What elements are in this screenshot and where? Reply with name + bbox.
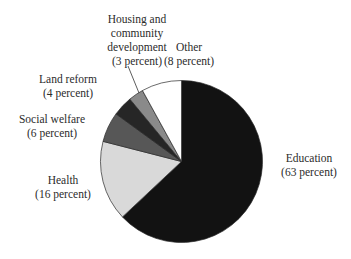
label-land-reform-line1: Land reform bbox=[28, 72, 108, 86]
label-education: Education (63 percent) bbox=[269, 151, 349, 179]
label-health: Health (16 percent) bbox=[28, 173, 98, 201]
label-other-line1: Other bbox=[154, 40, 224, 54]
label-social-welfare: Social welfare (6 percent) bbox=[12, 112, 92, 140]
label-other: Other (8 percent) bbox=[154, 40, 224, 68]
pie-slices bbox=[100, 81, 262, 243]
label-social-welfare-pct: (6 percent) bbox=[12, 126, 92, 140]
label-health-pct: (16 percent) bbox=[28, 187, 98, 201]
label-health-line1: Health bbox=[28, 173, 98, 187]
label-social-welfare-line1: Social welfare bbox=[12, 112, 92, 126]
label-land-reform: Land reform (4 percent) bbox=[28, 72, 108, 100]
label-education-line1: Education bbox=[269, 151, 349, 165]
label-other-pct: (8 percent) bbox=[154, 54, 224, 68]
label-education-pct: (63 percent) bbox=[269, 165, 349, 179]
housing-leader-line bbox=[128, 66, 139, 93]
label-land-reform-pct: (4 percent) bbox=[28, 86, 108, 100]
label-housing-line2: community bbox=[82, 26, 192, 40]
label-housing-line1: Housing and bbox=[82, 12, 192, 26]
